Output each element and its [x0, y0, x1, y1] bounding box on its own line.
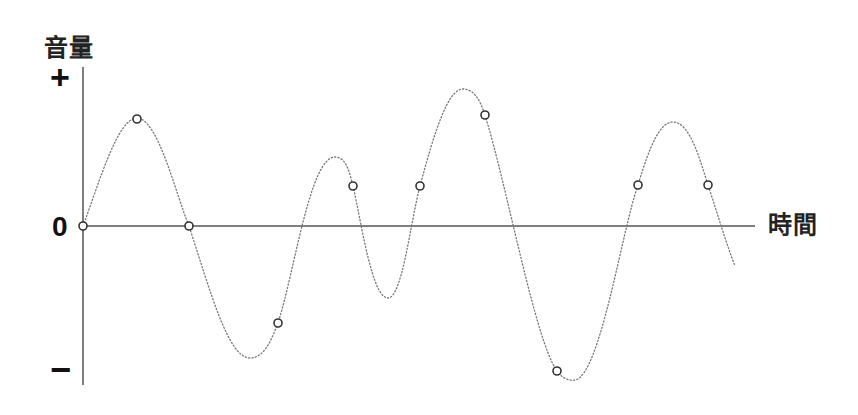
- sample-points: [79, 111, 712, 375]
- sample-point: [185, 222, 193, 230]
- sample-point: [553, 367, 561, 375]
- sample-point: [416, 182, 424, 190]
- sample-point: [481, 111, 489, 119]
- sample-point: [274, 319, 282, 327]
- sample-point: [704, 181, 712, 189]
- sample-point: [349, 182, 357, 190]
- sample-point: [133, 115, 141, 123]
- waveform-curve: [83, 89, 735, 380]
- sample-point: [79, 222, 87, 230]
- waveform-plot: [0, 0, 858, 415]
- sample-point: [634, 181, 642, 189]
